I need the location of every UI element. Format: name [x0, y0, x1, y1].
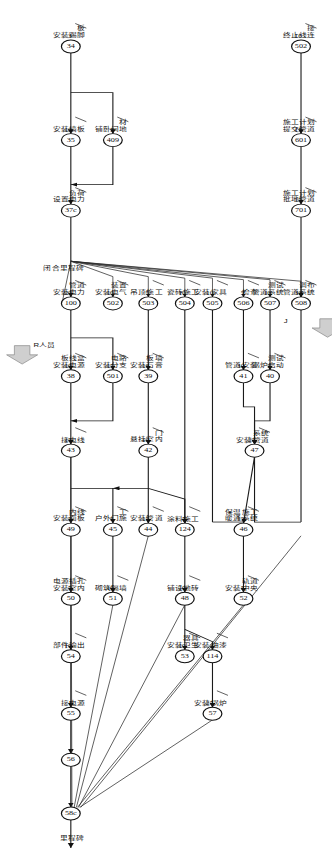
network-node[interactable]: 49	[61, 523, 80, 536]
activity-duration: 30	[294, 290, 303, 296]
network-node[interactable]: 39	[139, 369, 158, 382]
activity-name: 门	[155, 428, 163, 435]
network-node[interactable]: 44	[139, 523, 158, 536]
activity-duration: 10	[294, 33, 303, 39]
activity-duration: 10	[178, 642, 187, 648]
network-node[interactable]: 37c	[61, 204, 80, 217]
node-number: 507	[264, 300, 277, 306]
network-node[interactable]: 42	[139, 444, 158, 457]
activity-label: 安装石膏板墙10	[130, 353, 164, 368]
node-number: 506	[237, 300, 250, 306]
network-node[interactable]: 100	[61, 296, 80, 309]
network-node[interactable]: 54	[61, 649, 80, 662]
node-number: 41	[239, 373, 248, 379]
activity-name: 调布	[299, 281, 315, 288]
network-diagram-svg: 343540937c100385014349505024551503394244…	[0, 0, 332, 859]
activity-tick	[75, 633, 86, 638]
activity-label: 悬挂室内门10	[130, 427, 164, 442]
activity-label: 安装中央轨道5	[225, 575, 259, 590]
network-node[interactable]: 601	[292, 133, 311, 146]
activity-tick	[217, 690, 228, 695]
network-node[interactable]: 38	[61, 369, 80, 382]
j-annotation: J	[284, 317, 288, 323]
network-node[interactable]: 501	[103, 369, 122, 382]
network-node[interactable]: 34	[61, 39, 80, 52]
node-number: 124	[179, 526, 192, 532]
network-node[interactable]: 502	[103, 296, 122, 309]
network-node[interactable]: 45	[103, 523, 122, 536]
callout-arrow-j	[312, 318, 332, 336]
activity-tick	[75, 690, 86, 695]
activity-label: 安装电气装置10	[95, 280, 129, 295]
activity-tick	[153, 506, 164, 511]
network-diagram-page: 343540937c100385014349505024551503394244…	[0, 0, 332, 859]
network-node[interactable]: 502	[292, 39, 311, 52]
node-number: 44	[144, 526, 153, 532]
network-node[interactable]: 47	[245, 444, 264, 457]
network-node[interactable]: 508	[292, 296, 311, 309]
activity-duration: 15	[294, 197, 303, 203]
network-node[interactable]: 504	[175, 296, 194, 309]
network-node[interactable]: 52	[234, 592, 253, 605]
node-number: 501	[107, 373, 120, 379]
node-number: 505	[206, 300, 219, 306]
activity-name: 负荷	[69, 188, 85, 195]
network-node[interactable]: 35	[61, 133, 80, 146]
activity-label: 铺卧间地材5	[95, 117, 129, 132]
network-node[interactable]: 46	[234, 523, 253, 536]
activity-label: 安装油漆3	[194, 633, 228, 648]
activity-name: 器具	[183, 635, 199, 641]
network-node[interactable]: 507	[261, 296, 280, 309]
activity-name: 管道	[69, 281, 85, 288]
node-number: 58c	[65, 810, 77, 816]
activity-name: 测试	[268, 281, 284, 288]
network-node[interactable]: 51	[103, 592, 122, 605]
activity-tick	[117, 575, 128, 580]
network-node[interactable]: 41	[234, 369, 253, 382]
diagram-canvas: 343540937c100385014349505024551503394244…	[0, 0, 332, 859]
network-node[interactable]: 701	[292, 204, 311, 217]
activity-duration: 25	[248, 437, 257, 443]
node-number: 49	[67, 526, 76, 532]
network-node[interactable]: 124	[175, 523, 194, 536]
network-node[interactable]: 56	[61, 753, 80, 766]
activity-duration: 15	[237, 516, 246, 522]
activity-duration: 15	[294, 126, 303, 132]
activity-tick	[248, 353, 259, 358]
finish-milestone-label: 里程碑	[60, 834, 84, 841]
network-node[interactable]: 50	[61, 592, 80, 605]
node-number: 52	[239, 595, 248, 601]
network-node[interactable]: 114	[203, 649, 222, 662]
network-node[interactable]: 53	[175, 649, 194, 662]
activity-label: 部件输出10	[53, 633, 87, 648]
node-number: 35	[67, 136, 76, 142]
network-node[interactable]: 58c	[61, 806, 80, 819]
node-number: 55	[67, 710, 76, 716]
node-number: 56	[67, 756, 76, 762]
network-node[interactable]: 503	[139, 296, 158, 309]
network-node[interactable]: 43	[61, 444, 80, 457]
activity-duration: 10	[206, 290, 215, 296]
activity-label: 锅炉启动测试5	[252, 353, 286, 368]
activity-name: 内线	[69, 507, 85, 514]
network-node[interactable]: 506	[234, 296, 253, 309]
network-node[interactable]: 57	[203, 707, 222, 720]
activity-duration: 2	[68, 197, 72, 203]
network-node[interactable]: 505	[203, 296, 222, 309]
network-node[interactable]: 40	[261, 369, 280, 382]
activity-tick	[189, 575, 200, 580]
activity-label: 安装家具10	[194, 280, 228, 295]
activity-label: 安装电源板线盒10	[53, 353, 87, 368]
activity-label: 安装管道15	[130, 506, 164, 521]
activity-duration: 10	[263, 290, 272, 296]
network-node[interactable]: 48	[175, 592, 194, 605]
activity-label: 安装踢脚板3	[53, 23, 87, 38]
network-node[interactable]: 55	[61, 707, 80, 720]
activity-name: 板线盒	[61, 354, 85, 361]
activity-duration: 10	[142, 437, 151, 443]
activity-duration: 15	[142, 516, 151, 522]
activity-label: 安装管道系统25	[236, 427, 270, 442]
node-number: 34	[67, 43, 76, 49]
milestone-fanout	[62, 261, 301, 303]
network-node[interactable]: 409	[103, 133, 122, 146]
